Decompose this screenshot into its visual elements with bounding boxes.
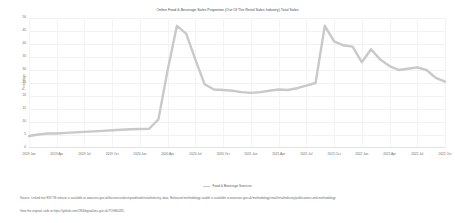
x-tick-2022-jul: 2022 Jul (411, 152, 423, 156)
y-tick-35: 35 (12, 55, 26, 59)
x-tick-2022-oct: 2022 Oct (439, 152, 452, 156)
plot-region: 50454035302520151050 (29, 18, 445, 148)
y-tick-25: 25 (12, 81, 26, 85)
x-tick-2021-jan: 2021 Jan (244, 152, 257, 156)
y-tick-10: 10 (12, 120, 26, 124)
y-tick-20: 20 (12, 94, 26, 98)
y-tick-40: 40 (12, 42, 26, 46)
x-tick-2020-oct: 2020 Oct (217, 152, 230, 156)
x-tick-2019-apr: 2019 Apr (50, 152, 63, 156)
y-tick-15: 15 (12, 107, 26, 111)
y-tick-50: 50 (12, 16, 26, 20)
series-line-food-beverage (29, 26, 445, 136)
y-tick-45: 45 (12, 29, 26, 33)
y-tick-5: 5 (12, 133, 26, 137)
gridline-v (445, 18, 446, 148)
legend-line-swatch (203, 186, 210, 187)
x-tick-2019-jan: 2019 Jan (22, 152, 35, 156)
source-footnote: Source: Linked text RSI TB release is av… (20, 196, 438, 200)
chart-area: Percentage 50454035302520151050 2019 Jan… (12, 18, 448, 170)
chart-title: Online Food & Beverage Sales Proportion … (0, 8, 455, 13)
x-tick-2019-oct: 2019 Oct (106, 152, 119, 156)
x-tick-2021-oct: 2021 Oct (328, 152, 341, 156)
x-tick-2020-apr: 2020 Apr (161, 152, 174, 156)
data-line-chart (29, 18, 445, 148)
chart-legend: Food & Beverage Services (0, 184, 455, 188)
x-tick-2020-jul: 2020 Jul (189, 152, 201, 156)
x-tick-2020-jan: 2020 Jan (133, 152, 146, 156)
x-tick-2022-jan: 2022 Jan (355, 152, 368, 156)
x-tick-2022-apr: 2022 Apr (383, 152, 396, 156)
x-tick-2021-apr: 2021 Apr (272, 152, 285, 156)
y-tick-30: 30 (12, 68, 26, 72)
x-tick-2019-jul: 2019 Jul (78, 152, 90, 156)
chart-page: Online Food & Beverage Sales Proportion … (0, 0, 455, 223)
original-link-footnote: View the original code at https://github… (20, 209, 438, 213)
x-axis-baseline (29, 147, 445, 148)
x-tick-2021-jul: 2021 Jul (300, 152, 312, 156)
y-tick-0: 0 (12, 146, 26, 150)
legend-label-food-beverage: Food & Beverage Services (212, 184, 251, 188)
